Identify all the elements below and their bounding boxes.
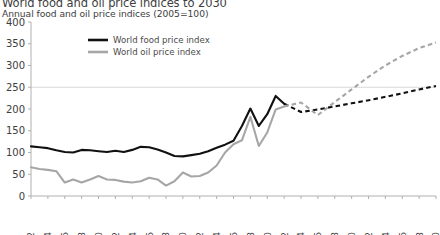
x-tick-label: 1992: [111, 232, 121, 235]
chart-container: World food and oil price indices to 2030…: [0, 0, 440, 235]
x-tick-label: 2020: [347, 232, 357, 235]
series-group: [31, 42, 436, 185]
x-tick-label: 1982: [26, 232, 36, 235]
x-tick-label: 1998: [161, 232, 171, 235]
y-tick-label: 400: [6, 17, 25, 28]
x-tick-label: 2030: [431, 232, 440, 235]
chart-legend: World food price indexWorld oil price in…: [88, 35, 210, 57]
y-tick-label: 250: [6, 82, 25, 93]
x-tick-label: 2022: [364, 232, 374, 235]
x-tick-label: 2012: [280, 232, 290, 235]
y-tick-label: 200: [6, 104, 25, 115]
x-tick-label: 1996: [145, 232, 155, 235]
y-axis: 050100150200250300350400: [6, 17, 31, 202]
y-tick-label: 300: [6, 60, 25, 71]
y-tick-label: 150: [6, 125, 25, 136]
legend-label: World food price index: [113, 35, 210, 45]
chart-plot-area: 050100150200250300350400 198219841986198…: [0, 0, 440, 235]
x-tick-label: 1988: [77, 232, 87, 235]
x-tick-label: 2002: [195, 232, 205, 235]
y-tick-label: 0: [19, 191, 25, 202]
x-axis: 1982198419861988199019921994199619982000…: [26, 196, 440, 235]
x-tick-label: 2024: [381, 232, 391, 235]
x-tick-label: 1984: [43, 232, 53, 235]
x-tick-label: 2014: [296, 232, 306, 235]
x-tick-label: 2026: [398, 232, 408, 235]
x-tick-label: 2010: [263, 232, 273, 235]
x-tick-label: 1994: [128, 232, 138, 235]
series-forecast-oil: [284, 42, 436, 115]
x-tick-label: 1990: [94, 232, 104, 235]
y-tick-label: 350: [6, 38, 25, 49]
x-tick-label: 2018: [330, 232, 340, 235]
x-tick-label: 2016: [313, 232, 323, 235]
x-tick-label: 1986: [60, 232, 70, 235]
y-tick-label: 100: [6, 147, 25, 158]
x-tick-label: 2000: [178, 232, 188, 235]
x-tick-label: 2004: [212, 232, 222, 235]
y-tick-label: 50: [12, 169, 25, 180]
x-tick-label: 2008: [246, 232, 256, 235]
x-tick-label: 2028: [415, 232, 425, 235]
x-tick-label: 2006: [229, 232, 239, 235]
legend-label: World oil price index: [113, 47, 201, 57]
